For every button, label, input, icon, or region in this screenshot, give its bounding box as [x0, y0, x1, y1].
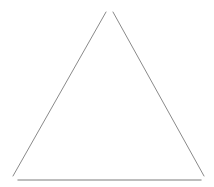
triangle-diagram	[0, 0, 214, 187]
diagram-canvas	[0, 0, 214, 187]
triangle-right-side	[113, 12, 204, 176]
triangle-left-side	[13, 12, 106, 176]
